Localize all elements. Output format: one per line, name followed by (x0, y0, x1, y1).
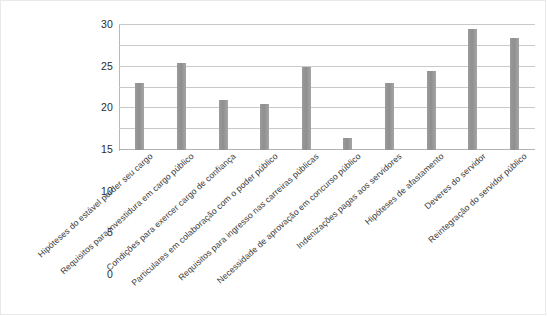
bar-7 (385, 83, 394, 150)
bar-6 (343, 138, 352, 151)
x-axis-label-8: Hipóteses de afastamento (361, 151, 446, 229)
x-axis-label-text: Necessidade de aprovação em concurso púb… (213, 151, 363, 287)
x-axis-label-text: Requisitos para ingresso nas carreiras p… (174, 151, 321, 284)
x-axis-category-labels: Hipóteses do estável perder seu cargoReq… (119, 151, 535, 311)
bar-9 (468, 29, 477, 150)
x-axis-label-text: Hipóteses de afastamento (361, 151, 446, 229)
y-tick-label-20: 20 (101, 101, 113, 113)
bars-series (119, 25, 535, 150)
y-tick-label-30: 30 (101, 18, 113, 30)
bar-8 (427, 71, 436, 150)
bar-10 (510, 38, 519, 151)
y-tick-label-15: 15 (101, 143, 113, 155)
bar-4 (260, 104, 269, 150)
plot-area: 051015202530 (119, 25, 535, 150)
x-axis-label-6: Necessidade de aprovação em concurso púb… (213, 151, 363, 287)
bar-chart-figure: 051015202530 Hipóteses do estável perder… (0, 0, 546, 315)
bar-1 (135, 83, 144, 150)
x-axis-label-4: Particulares em colaboração com o poder … (127, 151, 280, 290)
y-tick-label-25: 25 (101, 60, 113, 72)
x-axis-label-text: Particulares em colaboração com o poder … (127, 151, 280, 290)
bar-3 (219, 100, 228, 150)
bar-2 (177, 63, 186, 151)
bar-5 (302, 67, 311, 150)
x-axis-label-5: Requisitos para ingresso nas carreiras p… (174, 151, 321, 284)
